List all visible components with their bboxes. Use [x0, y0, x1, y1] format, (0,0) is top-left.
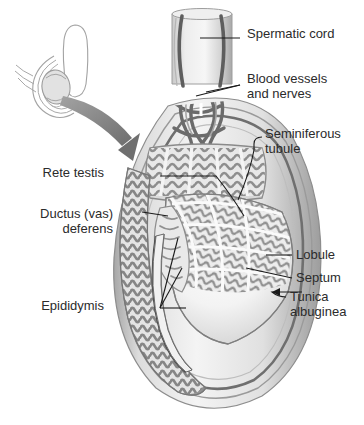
label-ductus-deferens: Ductus (vas) deferens [8, 206, 113, 236]
label-epididymis: Epididymis [18, 298, 104, 313]
label-rete-testis: Rete testis [18, 165, 104, 180]
label-blood-vessels-and-nerves: Blood vessels and nerves [247, 71, 327, 101]
label-seminiferous-tubule: Seminiferous tubule [265, 126, 341, 156]
label-spermatic-cord: Spermatic cord [247, 26, 334, 41]
spermatic-cord [172, 9, 232, 87]
label-tunica-albuginea: Tunica albuginea [290, 289, 346, 319]
label-septum: Septum [296, 270, 341, 285]
label-lobule: Lobule [296, 247, 335, 262]
